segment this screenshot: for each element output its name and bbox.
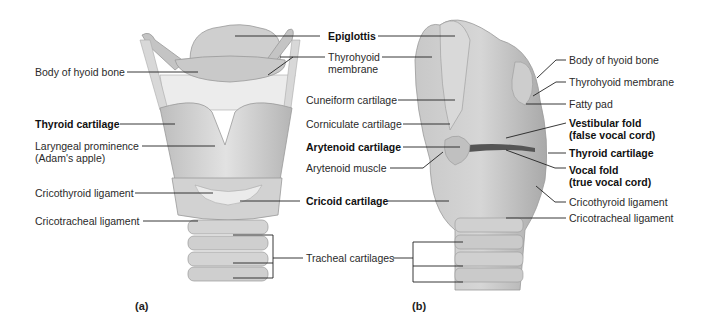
label-false-vocal-cord: (false vocal cord)	[569, 129, 655, 141]
label-thyrohyoid: Thyrohyoid	[328, 51, 380, 63]
anterior-view-larynx	[140, 25, 300, 281]
label-cricothyroid-ligament-b: Cricothyroid ligament	[569, 196, 668, 208]
label-cricotracheal-ligament-a: Cricotracheal ligament	[35, 215, 139, 227]
label-arytenoid-muscle: Arytenoid muscle	[306, 162, 387, 174]
label-arytenoid-cartilage: Arytenoid cartilage	[306, 141, 401, 153]
label-membrane: membrane	[328, 63, 378, 75]
label-cricothyroid-ligament-a: Cricothyroid ligament	[35, 187, 134, 199]
label-thyroid-cartilage-a: Thyroid cartilage	[35, 118, 120, 130]
label-cuneiform-cartilage: Cuneiform cartilage	[306, 94, 397, 106]
label-adams-apple: (Adam's apple)	[35, 152, 105, 164]
sagittal-view-larynx	[415, 20, 547, 290]
label-cricotracheal-ligament-b: Cricotracheal ligament	[569, 212, 673, 224]
caption-a: (a)	[135, 300, 148, 312]
label-thyrohyoid-membrane-b: Thyrohyoid membrane	[569, 76, 674, 88]
label-body-of-hyoid-bone-b: Body of hyoid bone	[569, 54, 659, 66]
label-epiglottis: Epiglottis	[328, 30, 376, 42]
label-laryngeal-prominence: Laryngeal prominence	[35, 140, 139, 152]
label-true-vocal-cord: (true vocal cord)	[569, 176, 651, 188]
label-body-of-hyoid-bone-a: Body of hyoid bone	[35, 66, 125, 78]
label-thyroid-cartilage-b: Thyroid cartilage	[569, 147, 654, 159]
label-corniculate-cartilage: Corniculate cartilage	[306, 118, 402, 130]
label-tracheal-cartilages: Tracheal cartilages	[306, 252, 394, 264]
label-cricoid-cartilage: Cricoid cartilage	[306, 195, 388, 207]
label-fatty-pad: Fatty pad	[569, 98, 613, 110]
label-vocal-fold: Vocal fold	[569, 164, 618, 176]
caption-b: (b)	[412, 300, 426, 312]
label-vestibular-fold: Vestibular fold	[569, 117, 641, 129]
